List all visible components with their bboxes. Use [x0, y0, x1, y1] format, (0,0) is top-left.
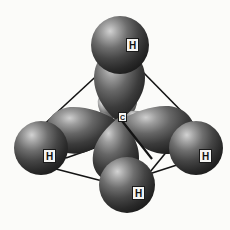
hydrogen-sphere-top [91, 16, 149, 74]
atom-label-carbon: C [118, 112, 127, 122]
hydrogen-sphere-bottom [99, 157, 155, 213]
atom-label-hydrogen-top: H [126, 38, 139, 52]
atom-label-hydrogen-bottom: H [132, 186, 145, 200]
atom-label-hydrogen-right: H [199, 149, 212, 163]
atom-label-hydrogen-left: H [43, 149, 56, 163]
orbital-diagram-figure: H H H H C sp3 hybrid orbitals of methane [0, 0, 230, 230]
hydrogen-sphere-left [14, 121, 68, 175]
molecule-canvas [0, 0, 230, 230]
hydrogen-sphere-right [169, 121, 223, 175]
